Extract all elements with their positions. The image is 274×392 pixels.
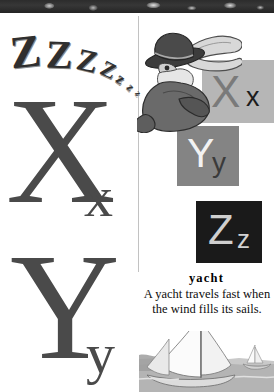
yacht-illustration (139, 331, 274, 392)
letter-block-z: Z z (196, 201, 262, 263)
entry-word: yacht (139, 271, 274, 286)
sleeping-man-illustration (137, 23, 242, 133)
left-column: Z Z Z Z z z z X x Y y (0, 13, 138, 392)
book-page: Z Z Z Z z z z X x Y y X x Y y Z z (0, 0, 274, 392)
block-lowercase-x: x (246, 84, 260, 111)
block-capital-y: Y (187, 133, 214, 174)
letter-block-y: Y y (177, 126, 239, 186)
right-column: X x Y y Z z (139, 13, 274, 392)
lowercase-letter-y: y (86, 325, 115, 383)
lowercase-letter-x: x (84, 168, 113, 226)
entry-definition: A yacht travels fast when the wind fills… (141, 287, 273, 317)
block-lowercase-y: y (212, 149, 226, 177)
snore-letter: z (124, 81, 136, 93)
block-capital-z: Z (208, 209, 234, 251)
page-binding-strip (0, 0, 274, 13)
block-lowercase-z: z (237, 226, 250, 252)
